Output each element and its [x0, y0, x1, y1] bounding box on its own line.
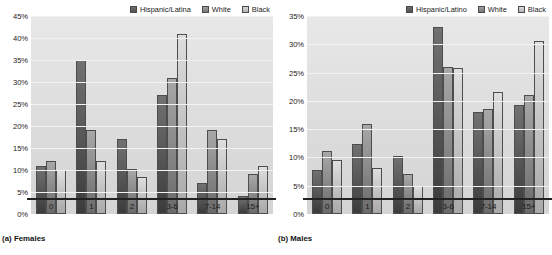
y-tick-label: 20% [13, 122, 28, 131]
x-tick-label: 2 [116, 202, 148, 216]
legend-item-0[interactable]: Hispanic/Latina [130, 5, 191, 14]
y-tick-label: 10% [13, 166, 28, 175]
y-tick-label: 15% [13, 144, 28, 153]
plot-area-males [307, 16, 549, 214]
bar[interactable] [362, 124, 372, 215]
bar[interactable] [524, 95, 534, 214]
gridline [31, 170, 273, 171]
gridline [31, 60, 273, 61]
bar-group [433, 16, 463, 214]
x-tick-label: 3-6 [156, 202, 188, 216]
y-tick-label: 35% [289, 12, 304, 21]
bar-group [76, 16, 106, 214]
bar-group [197, 16, 227, 214]
legend-item-label: White [488, 5, 507, 14]
bar-group [117, 16, 147, 214]
legend-swatch-icon [518, 6, 525, 13]
x-tick-label: 0 [311, 202, 343, 216]
bar[interactable] [76, 60, 86, 214]
legend-item-0[interactable]: Hispanic/Latino [406, 5, 467, 14]
bar[interactable] [167, 78, 177, 214]
x-tick-label: 15+ [513, 202, 545, 216]
bar[interactable] [453, 68, 463, 214]
legend-swatch-icon [130, 6, 137, 13]
y-tick-label: 0% [293, 210, 304, 219]
gridline [307, 186, 549, 187]
y-tick-label: 20% [289, 96, 304, 105]
x-tick-label: 7-14 [196, 202, 228, 216]
x-axis-labels-females: 0123-67-1415+ [31, 202, 273, 216]
gridline [307, 129, 549, 130]
bar-group [514, 16, 544, 214]
gridline [307, 157, 549, 158]
x-tick-label: 15+ [237, 202, 269, 216]
gridline [31, 104, 273, 105]
y-tick-label: 5% [293, 181, 304, 190]
bar-group [36, 16, 66, 214]
y-tick-label: 10% [289, 153, 304, 162]
gridline [31, 192, 273, 193]
y-axis-labels-females: 0%5%10%15%20%25%30%35%40%45% [0, 16, 31, 214]
legend-item-label: Hispanic/Latina [140, 5, 191, 14]
x-axis-labels-males: 0123-67-1415+ [307, 202, 549, 216]
gridline [307, 101, 549, 102]
legend-item-1[interactable]: White [478, 5, 507, 14]
gridline [31, 38, 273, 39]
bar[interactable] [493, 92, 503, 214]
y-tick-label: 40% [13, 34, 28, 43]
x-axis-line-males [303, 198, 552, 200]
plot-area-females [31, 16, 273, 214]
gridline [31, 148, 273, 149]
bar-group [157, 16, 187, 214]
legend-swatch-icon [406, 6, 413, 13]
x-tick-label: 3-6 [432, 202, 464, 216]
bar[interactable] [443, 67, 453, 214]
gridline [307, 44, 549, 45]
bar-groups-females [31, 16, 273, 214]
gridline [31, 126, 273, 127]
gridline [307, 73, 549, 74]
legend-item-label: Black [252, 5, 270, 14]
legend-item-label: Black [528, 5, 546, 14]
gridline [307, 16, 549, 17]
y-axis-labels-males: 0%5%10%15%20%25%30%35% [276, 16, 307, 214]
bar-groups-males [307, 16, 549, 214]
legend-item-2[interactable]: Black [242, 5, 270, 14]
bar-group [312, 16, 342, 214]
legend-females: Hispanic/LatinaWhiteBlack [0, 2, 276, 16]
x-tick-label: 0 [35, 202, 67, 216]
y-tick-label: 30% [13, 78, 28, 87]
bar[interactable] [534, 41, 544, 214]
y-tick-label: 15% [289, 125, 304, 134]
y-tick-label: 35% [13, 56, 28, 65]
bar[interactable] [157, 95, 167, 214]
legend-males: Hispanic/LatinoWhiteBlack [276, 2, 552, 16]
x-tick-label: 1 [75, 202, 107, 216]
gridline [31, 82, 273, 83]
legend-item-label: White [212, 5, 231, 14]
legend-item-1[interactable]: White [202, 5, 231, 14]
x-tick-label: 2 [392, 202, 424, 216]
bar-group [393, 16, 423, 214]
legend-item-2[interactable]: Black [518, 5, 546, 14]
bar-group [352, 16, 382, 214]
panel-caption-females: (a) Females [2, 234, 45, 243]
x-tick-label: 7-14 [472, 202, 504, 216]
legend-item-label: Hispanic/Latino [416, 5, 467, 14]
x-tick-label: 1 [351, 202, 383, 216]
legend-swatch-icon [242, 6, 249, 13]
y-tick-label: 0% [17, 210, 28, 219]
legend-swatch-icon [478, 6, 485, 13]
y-tick-label: 25% [13, 100, 28, 109]
y-tick-label: 45% [13, 12, 28, 21]
y-tick-label: 25% [289, 68, 304, 77]
bar-group [238, 16, 268, 214]
double-bar-chart-figure: Hispanic/LatinaWhiteBlack 0%5%10%15%20%2… [0, 0, 552, 255]
y-tick-label: 5% [17, 188, 28, 197]
panel-caption-males: (b) Males [278, 234, 312, 243]
chart-panel-males: Hispanic/LatinoWhiteBlack 0%5%10%15%20%2… [276, 0, 552, 255]
legend-swatch-icon [202, 6, 209, 13]
gridline [31, 16, 273, 17]
x-axis-line-females [27, 198, 276, 200]
bar-group [473, 16, 503, 214]
